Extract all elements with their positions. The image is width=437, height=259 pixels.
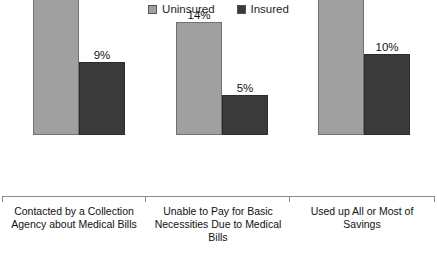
- bar-label-uninsured-2: 14%: [169, 9, 229, 21]
- category-axis-line: [2, 196, 435, 197]
- bar-label-insured-3: 10%: [357, 41, 417, 53]
- category-label-line: Necessities Due to Medical: [148, 218, 288, 231]
- category-label-line: Agency about Medical Bills: [4, 218, 144, 231]
- category-label-line: Unable to Pay for Basic: [148, 205, 288, 218]
- axis-tick-divider-2: [289, 197, 290, 202]
- plot-area: 22% 9% 14% 5% 20%: [0, 0, 437, 197]
- bar-label-insured-1: 9%: [72, 49, 132, 61]
- category-label-used-up-savings: Used up All or Most of Savings: [292, 205, 432, 231]
- bar-chart: Uninsured Insured 22% 9% 14%: [0, 0, 437, 259]
- category-labels: Contacted by a Collection Agency about M…: [0, 205, 437, 247]
- axis-tick-right: [434, 197, 435, 202]
- category-label-line: Used up All or Most of: [292, 205, 432, 218]
- category-label-line: Contacted by a Collection: [4, 205, 144, 218]
- bar-label-insured-2: 5%: [215, 82, 275, 94]
- chart-footnote: [4, 252, 434, 259]
- bar-uninsured-3: [318, 0, 364, 135]
- bar-insured-2: [222, 95, 268, 135]
- category-label-collection-agency: Contacted by a Collection Agency about M…: [4, 205, 144, 231]
- bar-insured-3: [364, 54, 410, 135]
- axis-tick-left: [2, 197, 3, 202]
- bar-uninsured-1: [33, 0, 79, 135]
- category-label-basic-necessities: Unable to Pay for Basic Necessities Due …: [148, 205, 288, 244]
- axis-tick-divider-1: [145, 197, 146, 202]
- bar-insured-1: [79, 62, 125, 135]
- category-label-line: Bills: [148, 231, 288, 244]
- bar-uninsured-2: [176, 22, 222, 135]
- category-label-line: Savings: [292, 218, 432, 231]
